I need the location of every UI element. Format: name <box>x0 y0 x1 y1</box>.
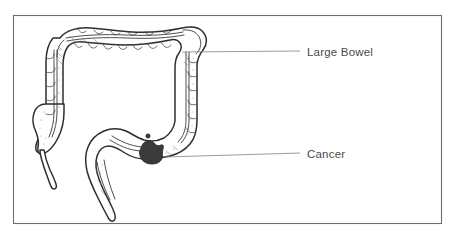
large-bowel-illustration: Large Bowel Cancer <box>0 0 455 239</box>
label-cancer: Cancer <box>307 148 345 160</box>
label-large-bowel: Large Bowel <box>307 46 373 58</box>
illustration-container: Large Bowel Cancer <box>0 0 455 239</box>
cancer-satellite-nodule <box>146 134 150 138</box>
